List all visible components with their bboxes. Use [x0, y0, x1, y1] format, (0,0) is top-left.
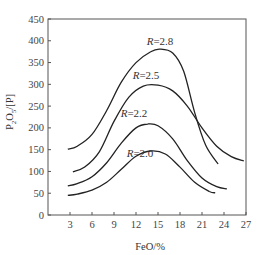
y-tick-label: 150: [28, 144, 44, 155]
y-tick-label: 400: [28, 35, 44, 46]
y-axis-title: P2O5/[P]: [4, 94, 18, 130]
x-tick-label: 15: [153, 219, 164, 230]
curve-label: R=2.5: [132, 69, 160, 81]
x-tick-label: 18: [175, 219, 186, 230]
y-tick-label: 250: [28, 101, 44, 112]
curve-label: R=2.8: [146, 35, 174, 47]
x-tick-label: 21: [197, 219, 208, 230]
y-tick-label: 100: [28, 166, 44, 177]
y-tick-label: 200: [28, 122, 44, 133]
y-tick-label: 300: [28, 79, 44, 90]
curve-label: R=2.0: [126, 147, 154, 159]
x-tick-label: 12: [131, 219, 142, 230]
y-tick-label: 450: [28, 14, 44, 25]
x-tick-label: 9: [111, 219, 116, 230]
y-tick-label: 0: [39, 210, 44, 221]
x-tick-label: 27: [241, 219, 252, 230]
chart-figure: 3691215182124270501001502002503003504004…: [0, 0, 264, 255]
x-tick-label: 24: [219, 219, 230, 230]
y-tick-label: 350: [28, 57, 44, 68]
x-tick-label: 3: [67, 219, 72, 230]
curve-label: R=2.2: [120, 107, 148, 119]
y-tick-label: 50: [34, 188, 45, 199]
chart-ticks: 3691215182124270501001502002503003504004…: [28, 14, 251, 231]
curve-r-2-5: [73, 85, 244, 172]
x-axis-title: FeO/%: [135, 241, 165, 252]
x-tick-label: 6: [89, 219, 94, 230]
